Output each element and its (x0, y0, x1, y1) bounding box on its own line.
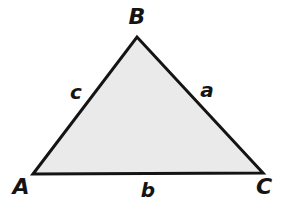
vertex-label-b: B (129, 6, 146, 28)
side-label-b: b (141, 180, 155, 200)
triangle-polygon (33, 37, 263, 174)
side-label-a: a (200, 80, 214, 100)
side-label-c: c (70, 82, 82, 102)
vertex-label-c: C (256, 176, 272, 198)
triangle-diagram: B A C c a b (0, 0, 285, 212)
vertex-label-a: A (12, 176, 29, 198)
